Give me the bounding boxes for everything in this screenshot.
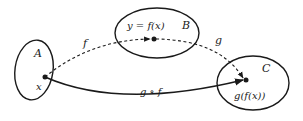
point-y-label: y = f(x)	[126, 20, 165, 31]
set-b-label: B	[181, 19, 190, 32]
point-gfx	[244, 78, 249, 83]
arrow-g-label: g	[215, 34, 222, 47]
point-x	[43, 75, 48, 80]
arrow-g	[156, 39, 243, 78]
point-x-label: x	[36, 81, 42, 92]
set-c-label: C	[262, 62, 271, 75]
point-y	[152, 37, 157, 42]
composition-diagram: A y = f(x) B C g(f(x)) f g g ∘ f x	[0, 0, 303, 121]
set-a-label: A	[33, 47, 42, 60]
point-gfx-label: g(f(x))	[234, 90, 265, 101]
arrow-f	[45, 39, 150, 77]
set-b-ellipse	[115, 8, 199, 58]
arrow-f-label: f	[82, 37, 89, 50]
arrow-gof-label: g ∘ f	[140, 86, 164, 97]
